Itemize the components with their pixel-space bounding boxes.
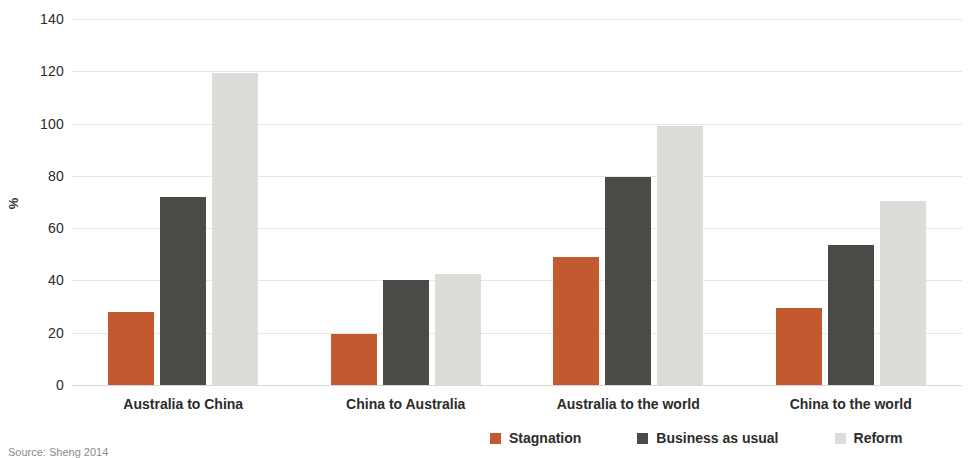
y-tick-label: 40 bbox=[48, 272, 64, 288]
bar-bau[interactable] bbox=[828, 245, 874, 385]
legend-swatch-icon bbox=[637, 433, 648, 444]
bar-group bbox=[295, 19, 518, 385]
legend-swatch-icon bbox=[490, 433, 501, 444]
gridline bbox=[72, 385, 962, 386]
x-axis-label: Australia to the world bbox=[517, 396, 740, 420]
bar-group bbox=[517, 19, 740, 385]
legend-item[interactable]: Business as usual bbox=[637, 430, 778, 446]
plot-area bbox=[72, 19, 962, 385]
bar-group bbox=[740, 19, 963, 385]
bar-reform[interactable] bbox=[880, 201, 926, 385]
y-tick-label: 100 bbox=[40, 116, 64, 132]
bar-reform[interactable] bbox=[212, 73, 258, 385]
bar-reform[interactable] bbox=[657, 126, 703, 385]
legend-item[interactable]: Stagnation bbox=[490, 430, 581, 446]
y-tick-label: 0 bbox=[56, 377, 64, 393]
bar-stagnation[interactable] bbox=[776, 308, 822, 385]
bar-stagnation[interactable] bbox=[108, 312, 154, 385]
legend-label: Reform bbox=[854, 430, 903, 446]
y-tick-label: 60 bbox=[48, 220, 64, 236]
bar-stagnation[interactable] bbox=[331, 334, 377, 385]
x-axis-labels: Australia to ChinaChina to AustraliaAust… bbox=[72, 396, 962, 420]
bar-reform[interactable] bbox=[435, 274, 481, 385]
chart-legend: StagnationBusiness as usualReform bbox=[490, 430, 903, 446]
x-axis-label: China to Australia bbox=[295, 396, 518, 420]
y-tick-label: 140 bbox=[40, 11, 64, 27]
x-axis-label: China to the world bbox=[740, 396, 963, 420]
bar-bau[interactable] bbox=[605, 177, 651, 385]
legend-swatch-icon bbox=[835, 433, 846, 444]
bar-stagnation[interactable] bbox=[553, 257, 599, 385]
x-axis-label: Australia to China bbox=[72, 396, 295, 420]
bar-group bbox=[72, 19, 295, 385]
y-axis-ticks: 020406080100120140 bbox=[0, 0, 70, 456]
legend-label: Business as usual bbox=[656, 430, 778, 446]
legend-item[interactable]: Reform bbox=[835, 430, 903, 446]
y-tick-label: 120 bbox=[40, 63, 64, 79]
y-tick-label: 20 bbox=[48, 325, 64, 341]
bar-bau[interactable] bbox=[383, 280, 429, 385]
source-note: Source: Sheng 2014 bbox=[8, 446, 108, 458]
y-tick-label: 80 bbox=[48, 168, 64, 184]
bar-groups bbox=[72, 19, 962, 385]
bar-bau[interactable] bbox=[160, 197, 206, 385]
legend-label: Stagnation bbox=[509, 430, 581, 446]
